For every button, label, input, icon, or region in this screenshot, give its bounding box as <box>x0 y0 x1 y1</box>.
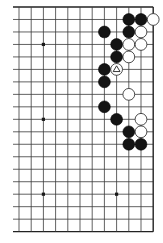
white-stone-icon <box>147 14 159 26</box>
black-stone[interactable] <box>135 14 147 26</box>
black-stone[interactable] <box>99 26 111 38</box>
black-stone[interactable] <box>123 14 135 26</box>
white-stone-icon <box>123 51 135 63</box>
black-stone-icon <box>135 14 147 26</box>
black-stone-icon <box>111 113 123 125</box>
white-stone[interactable] <box>135 26 147 38</box>
black-stone[interactable] <box>135 138 147 150</box>
black-stone[interactable] <box>123 138 135 150</box>
white-stone[interactable] <box>123 51 135 63</box>
white-stone[interactable] <box>111 64 123 76</box>
black-stone-icon <box>135 138 147 150</box>
black-stone-icon <box>99 26 111 38</box>
black-stone-icon <box>111 39 123 51</box>
black-stone-icon <box>123 126 135 138</box>
black-stone[interactable] <box>99 64 111 76</box>
star-point-icon <box>115 193 118 196</box>
black-stone-icon <box>123 138 135 150</box>
white-stone-icon <box>135 113 147 125</box>
white-stone[interactable] <box>147 14 159 26</box>
black-stone-icon <box>123 26 135 38</box>
white-stone-icon <box>135 39 147 51</box>
star-point-icon <box>42 118 45 121</box>
white-stone-icon <box>135 26 147 38</box>
star-point-icon <box>42 43 45 46</box>
black-stone-icon <box>123 14 135 26</box>
black-stone[interactable] <box>111 51 123 63</box>
white-stone[interactable] <box>135 126 147 138</box>
white-stone-icon <box>135 126 147 138</box>
black-stone-icon <box>111 51 123 63</box>
black-stone[interactable] <box>123 126 135 138</box>
white-stone-icon <box>123 39 135 51</box>
black-stone[interactable] <box>99 101 111 113</box>
white-stone-icon <box>123 88 135 100</box>
black-stone[interactable] <box>111 113 123 125</box>
black-stone-icon <box>99 101 111 113</box>
black-stone[interactable] <box>111 39 123 51</box>
black-stone-icon <box>99 64 111 76</box>
white-stone[interactable] <box>135 113 147 125</box>
white-stone[interactable] <box>123 88 135 100</box>
white-stone[interactable] <box>123 39 135 51</box>
star-point-icon <box>42 193 45 196</box>
go-board[interactable] <box>0 0 163 243</box>
black-stone[interactable] <box>99 76 111 88</box>
black-stone[interactable] <box>123 26 135 38</box>
white-stone[interactable] <box>135 39 147 51</box>
black-stone-icon <box>99 76 111 88</box>
go-board-svg[interactable] <box>0 0 163 243</box>
